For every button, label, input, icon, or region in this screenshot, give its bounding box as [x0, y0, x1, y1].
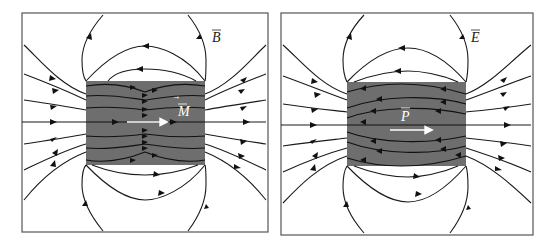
- field-lines-left: [281, 45, 347, 203]
- field-loops-bottom: [82, 165, 209, 231]
- field-loops-top: [343, 15, 468, 82]
- field-lines-left: [22, 45, 86, 200]
- field-label-B: B: [212, 30, 221, 45]
- panel-electric: P E: [281, 13, 533, 235]
- field-loops-top: [82, 15, 206, 81]
- field-loops-bottom: [343, 166, 471, 233]
- vector-label-M: M: [177, 104, 191, 119]
- field-label-E: E: [470, 30, 480, 45]
- panel-magnetic: M ⃗ B: [22, 13, 268, 232]
- field-lines-right: [466, 45, 531, 203]
- field-lines-right: [205, 45, 266, 200]
- vector-label-P: P: [400, 109, 410, 124]
- field-diagram: M ⃗ B: [0, 0, 553, 247]
